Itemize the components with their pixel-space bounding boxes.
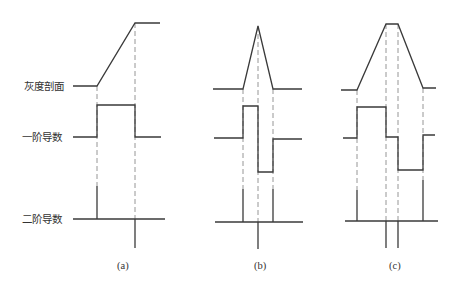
gray-profile-curve — [213, 26, 302, 89]
gray-profile-curve — [73, 23, 160, 86]
row-label-second-derivative: 二阶导数 — [22, 213, 63, 225]
edge-derivative-diagram: 灰度剖面 一阶导数 二阶导数 (a) (b) (c) — [0, 0, 461, 291]
panel-c — [341, 24, 438, 248]
first-derivative-curve — [214, 106, 302, 172]
panel-label-b: (b) — [254, 260, 267, 272]
panel-b — [213, 26, 303, 249]
row-label-profile: 灰度剖面 — [24, 80, 64, 92]
first-derivative-curve — [73, 105, 161, 137]
row-label-first-derivative: 一阶导数 — [22, 131, 63, 143]
panel-label-a: (a) — [117, 260, 129, 272]
panel-a — [73, 23, 165, 248]
gray-profile-curve — [341, 24, 436, 90]
panel-label-c: (c) — [389, 260, 401, 272]
first-derivative-curve — [343, 107, 435, 170]
